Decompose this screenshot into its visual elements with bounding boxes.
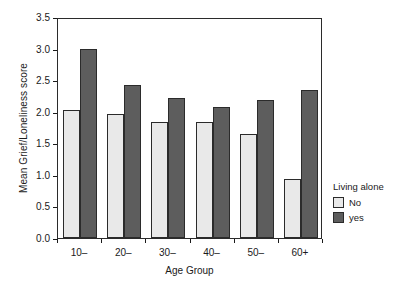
y-tick-label: 2.0	[22, 108, 50, 118]
bar-group	[63, 19, 97, 238]
x-tick-mark	[57, 239, 58, 243]
legend-label-no: No	[349, 196, 361, 209]
bar-group	[107, 19, 141, 238]
y-tick-label: 2.5	[22, 76, 50, 86]
y-tick-label: 0.5	[22, 202, 50, 212]
y-tick-mark	[53, 144, 57, 145]
x-tick-label: 50–	[236, 247, 276, 259]
y-tick-mark	[53, 176, 57, 177]
bar-no-60+	[284, 179, 301, 238]
legend: Living alone No yes	[333, 180, 415, 225]
bar-yes-30	[168, 98, 185, 238]
bar-no-50	[240, 134, 257, 238]
bar-yes-10	[80, 49, 97, 238]
x-tick-label: 10–	[59, 247, 99, 259]
bar-no-20	[107, 114, 124, 238]
x-tick-mark	[278, 239, 279, 243]
chart-figure: Mean Grief/Loneliness score 0.00.51.01.5…	[0, 0, 418, 292]
x-tick-label: 30–	[147, 247, 187, 259]
y-axis-tick-labels: 0.00.51.01.52.02.53.03.5	[22, 12, 50, 244]
legend-title: Living alone	[333, 180, 415, 193]
bar-yes-40	[213, 107, 230, 238]
x-axis-title: Age Group	[57, 265, 322, 277]
bar-group	[151, 19, 185, 238]
y-tick-label: 3.0	[22, 45, 50, 55]
bar-yes-20	[124, 85, 141, 238]
x-tick-mark	[145, 239, 146, 243]
y-tick-mark	[53, 207, 57, 208]
legend-label-yes: yes	[349, 211, 364, 224]
bar-group	[240, 19, 274, 238]
y-tick-mark	[53, 18, 57, 19]
y-tick-mark	[53, 81, 57, 82]
x-tick-label: 20–	[103, 247, 143, 259]
legend-swatch-yes-icon	[333, 212, 344, 223]
bar-no-10	[63, 110, 80, 238]
x-tick-mark	[190, 239, 191, 243]
x-tick-mark	[101, 239, 102, 243]
y-tick-mark	[53, 113, 57, 114]
y-tick-mark	[53, 50, 57, 51]
bars-container	[58, 19, 321, 238]
y-tick-label: 1.5	[22, 139, 50, 149]
x-tick-label: 40–	[192, 247, 232, 259]
x-tick-label: 60+	[280, 247, 320, 259]
bar-yes-50	[257, 100, 274, 238]
y-tick-label: 1.0	[22, 171, 50, 181]
legend-item-yes: yes	[333, 210, 415, 225]
bar-no-30	[151, 122, 168, 238]
bar-group	[196, 19, 230, 238]
plot-area	[57, 18, 322, 239]
bar-no-40	[196, 122, 213, 238]
y-tick-label: 3.5	[22, 13, 50, 23]
legend-swatch-no-icon	[333, 197, 344, 208]
x-tick-mark	[234, 239, 235, 243]
legend-item-no: No	[333, 195, 415, 210]
bar-yes-60+	[301, 90, 318, 238]
x-tick-mark	[322, 239, 323, 243]
bar-group	[284, 19, 318, 238]
y-tick-label: 0.0	[22, 234, 50, 244]
